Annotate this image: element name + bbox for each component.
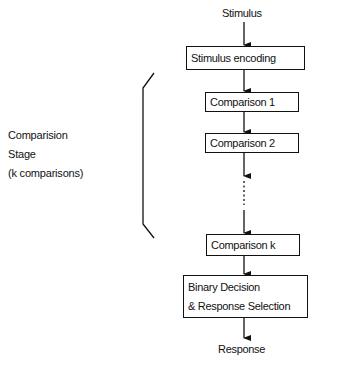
comparison-stage-label: Comparision Stage (k comparisons) (8, 126, 83, 183)
node-comparison-2: Comparison 2 (205, 133, 299, 153)
node-stimulus-encoding: Stimulus encoding (186, 46, 305, 70)
node-label: Comparison 2 (210, 137, 275, 149)
node-label: Comparison 1 (210, 96, 275, 108)
node-binary-decision: Binary Decision & Response Selection (183, 275, 308, 318)
response-label: Response (218, 343, 265, 355)
stage-label-line-1: Comparision (8, 126, 83, 145)
stage-label-line-3: (k comparisons) (8, 164, 83, 183)
stage-label-line-2: Stage (8, 145, 83, 164)
node-label-line-1: Binary Decision (188, 278, 307, 297)
node-label: Stimulus encoding (191, 52, 276, 64)
node-comparison-1: Comparison 1 (205, 92, 299, 112)
node-comparison-k: Comparison k (206, 234, 300, 256)
stage-bracket (143, 73, 154, 238)
stimulus-label: Stimulus (222, 7, 262, 19)
node-label-line-2: & Response Selection (188, 297, 307, 316)
node-label: Comparison k (211, 239, 275, 251)
